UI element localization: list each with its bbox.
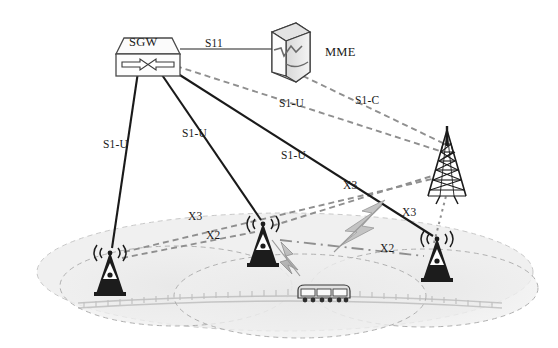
- link-label-s1u-left: S1-U: [103, 139, 128, 151]
- link-label-x3-middle: X3: [343, 180, 357, 192]
- link-sgw-enb-left: [112, 72, 138, 248]
- enodeb-right-base: [421, 278, 453, 282]
- node-label-mme: MME: [325, 46, 355, 59]
- link-label-x2-right: X2: [380, 243, 394, 255]
- train-car-2: [317, 289, 331, 296]
- macro-tower-base: [436, 196, 458, 204]
- link-label-s11: S11: [205, 38, 223, 50]
- enodeb-right-center-dot: [434, 258, 439, 263]
- link-label-s1u-right: S1-U: [281, 150, 306, 162]
- link-label-s1u-middle: S1-U: [182, 128, 207, 140]
- link-label-x3-right: X3: [402, 207, 416, 219]
- mme-node[interactable]: [272, 23, 310, 82]
- enodeb-middle-base: [247, 263, 279, 267]
- enodeb-middle-center-dot: [260, 243, 265, 248]
- node-label-sgw: SGW: [129, 36, 157, 49]
- train-car-1: [301, 289, 315, 296]
- enodeb-left-center-dot: [107, 272, 112, 277]
- link-label-x3-left: X3: [188, 211, 202, 223]
- mme-side-face: [286, 32, 310, 82]
- link-mme-macro-s1c: [303, 76, 447, 145]
- enodeb-left-base: [94, 292, 126, 296]
- train-car-3: [333, 289, 347, 296]
- link-label-s1u-dashed: S1-U: [279, 98, 304, 110]
- link-label-s1c: S1-C: [355, 95, 379, 107]
- link-label-x2-left: X2: [206, 230, 220, 242]
- link-sgw-macro-s1u: [176, 66, 443, 152]
- diagram-canvas: [0, 0, 558, 348]
- network-diagram: S11 S1-U S1-U S1-U S1-U S1-C X3 X2 X3 X2…: [0, 0, 558, 348]
